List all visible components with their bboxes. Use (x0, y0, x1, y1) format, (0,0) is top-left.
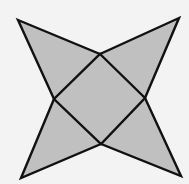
star-diagram (0, 0, 189, 184)
star-shape (18, 18, 181, 178)
